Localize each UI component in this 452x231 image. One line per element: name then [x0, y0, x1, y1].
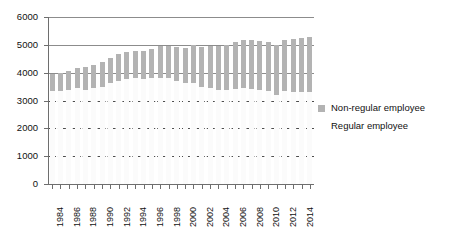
bar-1986[interactable] — [66, 17, 71, 184]
bar-1995[interactable] — [141, 17, 146, 184]
bar-segment-regular — [108, 83, 113, 184]
bar-segment-regular — [174, 81, 179, 184]
bar-2012[interactable] — [282, 17, 287, 184]
bar-segment-non-regular — [58, 73, 63, 91]
plot-area — [48, 17, 314, 184]
bar-2010[interactable] — [266, 17, 271, 184]
bar-segment-regular — [199, 87, 204, 184]
bar-segment-non-regular — [208, 46, 213, 88]
bar-1989[interactable] — [91, 17, 96, 184]
x-tick-label-2004: 2004 — [222, 207, 231, 227]
bar-2003[interactable] — [208, 17, 213, 184]
bar-segment-non-regular — [133, 51, 138, 78]
bar-2004[interactable] — [216, 17, 221, 184]
legend-swatch-icon-non-regular — [318, 105, 325, 112]
bar-2013[interactable] — [291, 17, 296, 184]
bar-segment-non-regular — [199, 47, 204, 87]
bar-segment-regular — [266, 91, 271, 184]
x-tick-label-2014: 2014 — [306, 207, 315, 227]
x-tick-label-1994: 1994 — [139, 207, 148, 227]
legend-label-non-regular: Non-regular employee — [331, 103, 425, 113]
bar-2007[interactable] — [241, 17, 246, 184]
x-tick-label-1986: 1986 — [73, 207, 82, 227]
bar-segment-non-regular — [149, 49, 154, 78]
bar-2002[interactable] — [199, 17, 204, 184]
chart-legend: Non-regular employee Regular employee — [318, 99, 450, 135]
bar-1996[interactable] — [149, 17, 154, 184]
bar-segment-non-regular — [307, 37, 312, 92]
legend-item-non-regular-employee[interactable]: Non-regular employee — [318, 99, 450, 117]
bar-segment-non-regular — [116, 54, 121, 81]
x-tick-label-1992: 1992 — [123, 207, 132, 227]
bar-1988[interactable] — [83, 17, 88, 184]
x-tick-label-1990: 1990 — [106, 207, 115, 227]
y-axis-tick-labels: 0100020003000400050006000 — [0, 17, 44, 184]
bar-2005[interactable] — [224, 17, 229, 184]
bar-segment-non-regular — [66, 71, 71, 90]
bar-segment-non-regular — [191, 45, 196, 83]
bar-1998[interactable] — [166, 17, 171, 184]
bar-segment-regular — [133, 78, 138, 184]
bar-segment-regular — [124, 79, 129, 184]
bar-1999[interactable] — [174, 17, 179, 184]
bar-1985[interactable] — [58, 17, 63, 184]
bar-1997[interactable] — [158, 17, 163, 184]
bar-1994[interactable] — [133, 17, 138, 184]
bar-segment-regular — [75, 88, 80, 184]
bar-2000[interactable] — [183, 17, 188, 184]
bar-2001[interactable] — [191, 17, 196, 184]
bar-2011[interactable] — [274, 17, 279, 184]
y-tick-label-6000: 6000 — [0, 12, 38, 22]
bar-segment-non-regular — [266, 42, 271, 91]
bar-segment-non-regular — [158, 46, 163, 78]
bar-segment-non-regular — [83, 67, 88, 90]
bar-segment-regular — [282, 91, 287, 184]
bar-1990[interactable] — [100, 17, 105, 184]
x-tick-label-2002: 2002 — [206, 207, 215, 227]
bar-segment-non-regular — [183, 48, 188, 83]
x-tick-label-2010: 2010 — [272, 207, 281, 227]
legend-item-regular-employee[interactable]: Regular employee — [318, 117, 450, 135]
bar-1993[interactable] — [124, 17, 129, 184]
bar-2015[interactable] — [307, 17, 312, 184]
bar-2009[interactable] — [257, 17, 262, 184]
x-tick-label-1984: 1984 — [56, 207, 65, 227]
x-tick-label-1988: 1988 — [89, 207, 98, 227]
bar-segment-non-regular — [282, 40, 287, 91]
bar-segment-regular — [100, 87, 105, 184]
bar-segment-regular — [149, 78, 154, 184]
bar-segment-regular — [58, 91, 63, 184]
legend-swatch-icon-regular — [318, 123, 325, 130]
x-axis-tick-labels: 1984198619881990199219941996199820002002… — [48, 189, 314, 231]
bar-segment-non-regular — [299, 38, 304, 93]
bar-segment-non-regular — [249, 40, 254, 89]
bar-segment-non-regular — [50, 74, 55, 91]
bar-1984[interactable] — [50, 17, 55, 184]
bar-2008[interactable] — [249, 17, 254, 184]
bar-segment-regular — [224, 90, 229, 184]
bar-segment-regular — [50, 91, 55, 184]
bar-1987[interactable] — [75, 17, 80, 184]
bar-segment-regular — [208, 88, 213, 184]
bar-segment-regular — [257, 90, 262, 184]
bar-1991[interactable] — [108, 17, 113, 184]
bar-segment-regular — [307, 92, 312, 184]
chart-container: 0100020003000400050006000 19841986198819… — [0, 0, 452, 231]
bar-segment-non-regular — [100, 62, 105, 87]
bar-segment-regular — [249, 89, 254, 184]
x-tick-label-1996: 1996 — [156, 207, 165, 227]
bar-segment-non-regular — [174, 47, 179, 81]
bar-1992[interactable] — [116, 17, 121, 184]
bar-segment-regular — [299, 92, 304, 184]
bar-2014[interactable] — [299, 17, 304, 184]
bar-2006[interactable] — [233, 17, 238, 184]
bar-segment-non-regular — [91, 65, 96, 88]
x-tick-label-2008: 2008 — [256, 207, 265, 227]
y-tick-label-1000: 1000 — [0, 151, 38, 161]
bar-segment-non-regular — [216, 46, 221, 90]
bar-segment-non-regular — [124, 52, 129, 79]
x-tick-label-2000: 2000 — [189, 207, 198, 227]
bar-segment-non-regular — [241, 40, 246, 88]
bar-segment-regular — [158, 78, 163, 184]
bar-segment-regular — [66, 90, 71, 184]
